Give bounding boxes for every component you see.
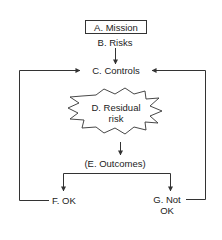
not-ok-label-line2: OK — [160, 205, 174, 216]
mission-label: A. Mission — [94, 22, 138, 33]
residual-risk-label-line1: D. Residual — [91, 102, 140, 113]
residual-risk-label-line2: risk — [109, 113, 124, 124]
arrow-notok-to-controls — [152, 71, 206, 200]
risks-label: B. Risks — [98, 37, 133, 48]
arrow-ok-to-controls — [20, 71, 81, 201]
ok-label: F. OK — [52, 195, 76, 206]
controls-label: C. Controls — [92, 65, 140, 76]
branch-line — [64, 174, 171, 191]
not-ok-label-line1: G. Not — [153, 194, 180, 205]
outcomes-label: (E. Outcomes) — [84, 158, 145, 169]
